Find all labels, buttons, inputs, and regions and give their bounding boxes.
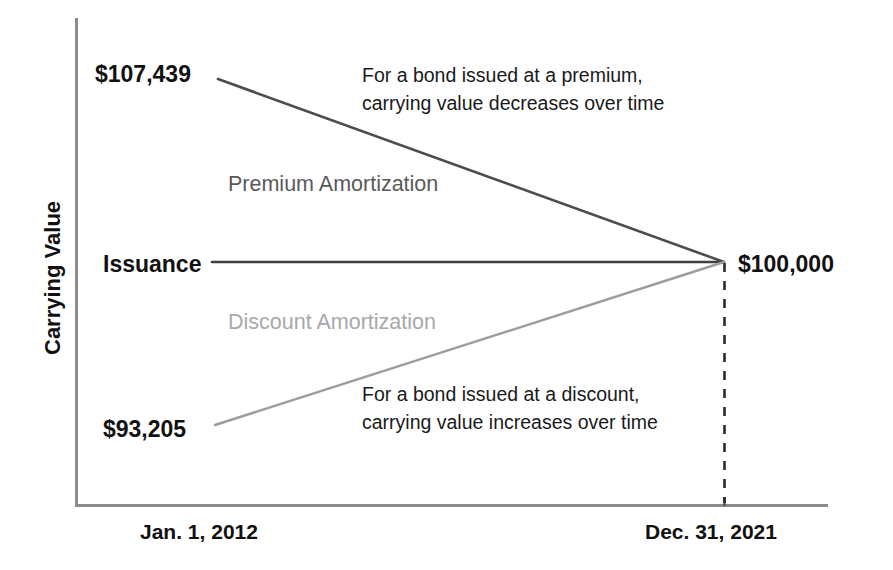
discount-annotation: For a bond issued at a discount,carrying… [362, 380, 658, 437]
discount-annotation-line1: For a bond issued at a discount, [362, 383, 640, 405]
y-axis-title: Carrying Value [38, 201, 67, 355]
premium-start-value-label: $107,439 [95, 59, 191, 89]
issuance-label: Issuance [103, 249, 201, 279]
discount-start-value-label: $93,205 [103, 414, 186, 444]
premium-annotation-line1: For a bond issued at a premium, [362, 64, 643, 86]
x-tick-label-left: Jan. 1, 2012 [140, 518, 258, 546]
premium-series-label: Premium Amortization [228, 170, 438, 198]
premium-annotation: For a bond issued at a premium,carrying … [362, 61, 664, 118]
bond-carrying-value-chart: Carrying Value $107,439 For a bond issue… [0, 0, 893, 570]
discount-annotation-line2: carrying value increases over time [362, 411, 658, 433]
maturity-value-label: $100,000 [738, 249, 834, 279]
x-tick-label-right: Dec. 31, 2021 [645, 518, 777, 546]
discount-series-label: Discount Amortization [228, 308, 436, 336]
premium-annotation-line2: carrying value decreases over time [362, 92, 664, 114]
